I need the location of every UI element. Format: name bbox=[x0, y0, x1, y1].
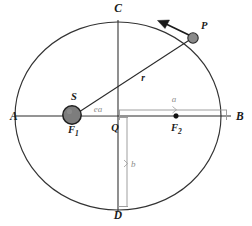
focus-two-label-subscript: 2 bbox=[177, 127, 182, 136]
focus-two-label: F2 bbox=[170, 122, 182, 136]
velocity-arrow bbox=[158, 20, 192, 36]
focal-distance-label: ea bbox=[94, 104, 103, 114]
ellipse-orbit-diagram: A B C D S F1 P F2 Q a b ea r bbox=[0, 0, 252, 226]
focus-one-label: F1 bbox=[67, 124, 79, 138]
planet-label: P bbox=[201, 20, 208, 31]
semi-minor-dimension-group bbox=[118, 117, 128, 207]
radius-vector-label: r bbox=[141, 73, 145, 83]
sun-highlight bbox=[67, 109, 72, 114]
diagram-canvas: A B C D S F1 P F2 Q a b ea r bbox=[0, 0, 252, 226]
semi-major-axis-label: a bbox=[172, 94, 177, 104]
planet-body bbox=[188, 33, 198, 43]
focus-one-label-letter: F bbox=[67, 124, 75, 135]
sun-body bbox=[63, 106, 81, 124]
focus-two-dot bbox=[174, 114, 179, 119]
vertex-label-d: D bbox=[113, 209, 123, 221]
vertex-label-a: A bbox=[9, 110, 18, 122]
vertex-label-c: C bbox=[114, 2, 122, 14]
center-label-q: Q bbox=[111, 122, 119, 133]
focus-two-label-letter: F bbox=[170, 122, 178, 133]
semi-minor-axis-label: b bbox=[131, 159, 136, 169]
semi-major-dimension-group bbox=[119, 107, 227, 121]
vertex-label-b: B bbox=[235, 110, 244, 122]
sun-label: S bbox=[71, 91, 77, 102]
focus-one-label-subscript: 1 bbox=[75, 129, 79, 138]
